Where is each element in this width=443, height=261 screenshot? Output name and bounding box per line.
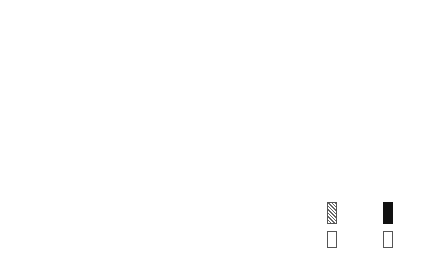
legend-swatch-ga1 <box>327 231 337 248</box>
distance-total-row <box>16 239 30 247</box>
training-chart <box>0 0 443 261</box>
times-summary <box>183 207 192 249</box>
distance-summary <box>16 207 30 261</box>
legend-swatch-h-swim <box>383 202 393 224</box>
legend-swatch-h-other <box>383 231 393 248</box>
legend-swatch-ga2 <box>327 202 337 224</box>
legend-label-h-other <box>400 232 418 261</box>
